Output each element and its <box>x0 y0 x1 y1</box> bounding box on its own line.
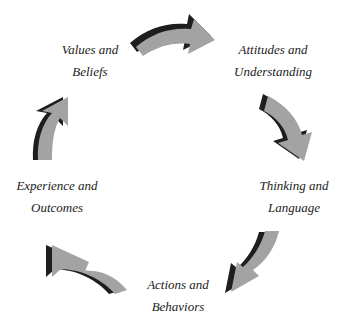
node-label-line2: Behaviors <box>128 296 228 318</box>
curved-arrow-up-icon <box>33 97 68 160</box>
curved-arrow-right-icon <box>130 14 215 56</box>
node-actions-and-behaviors: Actions and Behaviors <box>128 274 228 318</box>
node-label-line1: Attitudes and <box>213 39 333 61</box>
node-thinking-and-language: Thinking and Language <box>244 175 340 219</box>
node-label-line2: Outcomes <box>2 197 112 219</box>
curved-arrow-down-left-icon <box>225 231 279 293</box>
curved-arrow-up-left-icon <box>46 245 127 294</box>
node-experience-and-outcomes: Experience and Outcomes <box>2 175 112 219</box>
node-label-line1: Thinking and <box>244 175 340 197</box>
node-label-line1: Values and <box>40 39 140 61</box>
node-label-line2: Beliefs <box>40 61 140 83</box>
node-attitudes-and-understanding: Attitudes and Understanding <box>213 39 333 83</box>
node-label-line2: Language <box>244 197 340 219</box>
cycle-diagram: Values and Beliefs Attitudes and Underst… <box>0 0 340 319</box>
node-label-line1: Actions and <box>128 274 228 296</box>
node-label-line2: Understanding <box>213 61 333 83</box>
curved-arrow-down-icon <box>259 94 312 161</box>
node-label-line1: Experience and <box>2 175 112 197</box>
node-values-and-beliefs: Values and Beliefs <box>40 39 140 83</box>
